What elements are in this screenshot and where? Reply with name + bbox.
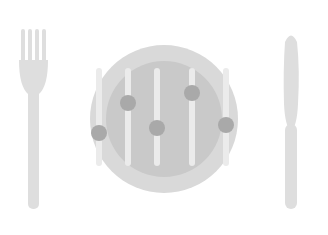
food-settings-illustration <box>0 0 328 235</box>
slider-4-knob[interactable] <box>184 85 200 101</box>
plate-inner-well <box>106 61 222 177</box>
knife-handle <box>285 124 297 209</box>
knife-blade <box>284 36 299 133</box>
slider-5-knob[interactable] <box>218 117 234 133</box>
slider-4-track[interactable] <box>189 68 195 166</box>
slider-1-track[interactable] <box>96 68 102 166</box>
slider-1-knob[interactable] <box>91 125 107 141</box>
slider-2-track[interactable] <box>125 68 131 166</box>
plate <box>90 45 238 193</box>
fork-handle <box>28 92 39 209</box>
slider-3-knob[interactable] <box>149 120 165 136</box>
icon-canvas <box>0 0 328 235</box>
slider-3-track[interactable] <box>154 68 160 166</box>
slider-2-knob[interactable] <box>120 95 136 111</box>
